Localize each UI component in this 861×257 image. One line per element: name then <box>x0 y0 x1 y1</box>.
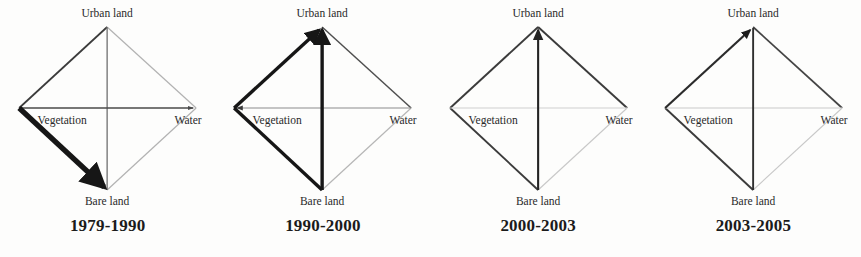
vertex-label-left: Vegetation <box>468 114 517 127</box>
diamond-diagram-4: Urban land Water Bare land Vegetation <box>646 0 861 215</box>
edge-urban-water <box>322 27 411 108</box>
vertex-label-left: Vegetation <box>253 114 302 127</box>
edge-vegetation-urban <box>19 27 107 108</box>
edge-urban-water <box>753 27 842 108</box>
panel-1979-1990: Urban land Water Bare land Vegetation 19… <box>0 0 215 257</box>
edge-urban-water <box>538 27 627 108</box>
arrow-vegetation-to-urban <box>234 30 319 108</box>
panel-row: Urban land Water Bare land Vegetation 19… <box>0 0 861 257</box>
panel-2003-2005: Urban land Water Bare land Vegetation 20… <box>646 0 861 257</box>
diamond-diagram-1: Urban land Water Bare land Vegetation <box>0 0 215 215</box>
period-label-3: 2000-2003 <box>431 216 646 236</box>
period-label-1: 1979-1990 <box>0 216 215 236</box>
vertex-label-bottom: Bare land <box>300 195 345 207</box>
land-use-transition-figure: Urban land Water Bare land Vegetation 19… <box>0 0 861 257</box>
vertex-label-right: Water <box>175 114 202 126</box>
vertex-label-bottom: Bare land <box>85 195 130 207</box>
period-label-2: 1990-2000 <box>215 216 430 236</box>
period-label-4: 2003-2005 <box>646 216 861 236</box>
panel-1990-2000: Urban land Water Bare land Vegetation 19… <box>215 0 430 257</box>
vertex-label-right: Water <box>820 114 847 126</box>
vertex-label-left: Vegetation <box>683 114 732 127</box>
vertex-label-top: Urban land <box>727 7 779 19</box>
panel-2000-2003: Urban land Water Bare land Vegetation 20… <box>431 0 646 257</box>
vertex-label-top: Urban land <box>81 7 133 19</box>
vertex-label-bottom: Bare land <box>515 195 560 207</box>
diamond-diagram-2: Urban land Water Bare land Vegetation <box>215 0 430 215</box>
vertex-label-top: Urban land <box>297 7 349 19</box>
vertex-label-left: Vegetation <box>38 114 87 127</box>
diamond-diagram-3: Urban land Water Bare land Vegetation <box>431 0 646 215</box>
vertex-label-right: Water <box>390 114 417 126</box>
vertex-label-top: Urban land <box>512 7 564 19</box>
vertex-label-bottom: Bare land <box>731 195 776 207</box>
edge-urban-water <box>107 27 196 108</box>
arrow-vegetation-to-urban <box>665 30 750 108</box>
edge-vegetation-urban <box>450 27 538 108</box>
vertex-label-right: Water <box>605 114 632 126</box>
